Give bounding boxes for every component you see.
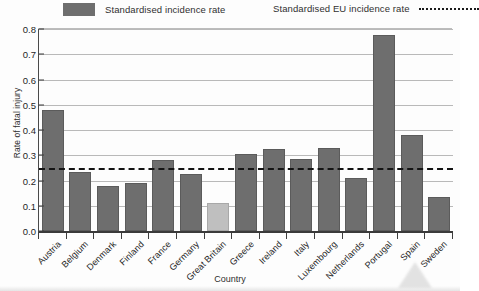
- x-axis-label-italy: Italy: [292, 239, 311, 258]
- y-axis-tick-label: 0.1: [23, 200, 39, 211]
- y-axis-tick-mark: [39, 54, 44, 55]
- plot-area: [39, 29, 453, 231]
- legend-label-incidence-rate: Standardised incidence rate: [105, 4, 225, 15]
- x-axis-label-denmark: Denmark: [85, 239, 118, 272]
- chart-legend: Standardised incidence rate Standardised…: [0, 0, 460, 24]
- x-axis-title: Country: [0, 274, 460, 284]
- x-axis-label-finland: Finland: [117, 239, 145, 267]
- y-axis-tick-mark: [39, 29, 44, 30]
- y-axis-tick: 0.8: [23, 24, 39, 35]
- bar-spain: [401, 135, 423, 231]
- bar-denmark: [97, 186, 119, 231]
- y-axis-tick-label: 0.0: [23, 226, 39, 237]
- scan-artifact: [398, 262, 432, 288]
- bar-greece: [235, 154, 257, 231]
- bar-belgium: [69, 172, 91, 231]
- y-axis-tick: 0.0: [23, 226, 39, 237]
- y-axis-tick: 0.2: [23, 175, 39, 186]
- bar-austria: [42, 110, 64, 231]
- x-axis-tick-mark: [452, 233, 453, 239]
- x-axis-label-portugal: Portugal: [363, 239, 394, 270]
- y-axis-tick: 0.5: [23, 99, 39, 110]
- y-axis-tick: 0.7: [23, 49, 39, 60]
- x-axis-label-greece: Greece: [228, 239, 256, 267]
- y-axis-tick-label: 0.5: [23, 99, 39, 110]
- legend-dashed-line-icon: [419, 8, 479, 10]
- bar-great-britain: [207, 203, 229, 231]
- x-axis-label-spain: Spain: [398, 239, 422, 263]
- y-axis-tick: 0.3: [23, 150, 39, 161]
- y-axis-tick: 0.1: [23, 200, 39, 211]
- bar-germany: [180, 174, 202, 231]
- legend-swatch-icon: [63, 3, 95, 16]
- legend-item-incidence-rate: Standardised incidence rate: [63, 3, 225, 16]
- y-axis-tick-mark: [39, 155, 44, 156]
- bar-finland: [125, 183, 147, 231]
- y-axis-tick-mark: [39, 231, 44, 232]
- bar-ireland: [263, 149, 285, 231]
- y-axis-tick-label: 0.2: [23, 175, 39, 186]
- legend-item-eu-incidence-rate: Standardised EU incidence rate: [273, 3, 479, 14]
- y-axis-tick-label: 0.8: [23, 24, 39, 35]
- y-axis-tick: 0.6: [23, 74, 39, 85]
- bar-sweden: [428, 197, 450, 231]
- x-axis-label-ireland: Ireland: [257, 239, 284, 266]
- y-axis-tick-label: 0.6: [23, 74, 39, 85]
- y-axis-tick-label: 0.4: [23, 125, 39, 136]
- y-axis-tick-mark: [39, 180, 44, 181]
- bar-france: [152, 160, 174, 231]
- y-axis-tick-mark: [39, 205, 44, 206]
- y-axis-title: Rate of fatal injury: [12, 68, 22, 178]
- y-axis-tick-mark: [39, 104, 44, 105]
- y-axis-tick-label: 0.3: [23, 150, 39, 161]
- y-axis-tick: 0.4: [23, 125, 39, 136]
- page-edge-shading: [0, 286, 460, 291]
- y-axis-tick-mark: [39, 130, 44, 131]
- bar-portugal: [373, 35, 395, 231]
- bar-luxembourg: [318, 148, 340, 231]
- bar-netherlands: [345, 178, 367, 231]
- plot-frame: 0.80.70.60.50.40.30.20.10.0: [38, 29, 453, 233]
- gridline: [39, 29, 453, 30]
- y-axis-tick-label: 0.7: [23, 49, 39, 60]
- y-axis-tick-mark: [39, 79, 44, 80]
- legend-label-eu-incidence-rate: Standardised EU incidence rate: [273, 3, 410, 14]
- eu-reference-line: [39, 168, 453, 170]
